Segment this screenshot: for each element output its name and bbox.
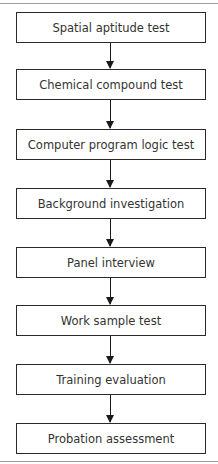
step-5-box: Panel interview <box>16 247 206 278</box>
step-3-box: Computer program logic test <box>16 129 206 160</box>
step-label: Computer program logic test <box>28 138 194 152</box>
step-7-box: Training evaluation <box>16 364 206 395</box>
step-4-box: Background investigation <box>16 188 206 219</box>
top-rule <box>0 3 218 4</box>
step-label: Spatial aptitude test <box>52 21 169 35</box>
arrow-1-to-2 <box>110 43 111 68</box>
arrow-2-to-3 <box>110 100 111 128</box>
step-8-box: Probation assessment <box>16 423 206 454</box>
step-2-box: Chemical compound test <box>16 69 206 100</box>
step-label: Panel interview <box>67 256 155 270</box>
arrow-3-to-4 <box>110 160 111 187</box>
step-6-box: Work sample test <box>16 305 206 336</box>
step-label: Training evaluation <box>56 373 166 387</box>
arrow-5-to-6 <box>110 278 111 304</box>
arrow-6-to-7 <box>110 336 111 363</box>
step-label: Background investigation <box>38 197 185 211</box>
bottom-rule <box>0 461 218 462</box>
arrow-7-to-8 <box>110 395 111 422</box>
step-label: Work sample test <box>61 314 161 328</box>
step-1-box: Spatial aptitude test <box>16 12 206 43</box>
step-label: Probation assessment <box>48 432 174 446</box>
arrow-4-to-5 <box>110 219 111 246</box>
step-label: Chemical compound test <box>39 78 183 92</box>
